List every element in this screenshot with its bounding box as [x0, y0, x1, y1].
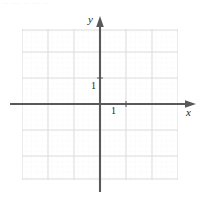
y-axis-unit-tick-label: 1	[91, 81, 96, 91]
x-axis-label: x	[186, 107, 191, 118]
y-axis-label: y	[88, 14, 93, 25]
coordinate-grid-figure: ·· ··· ·· ··· ··	[0, 0, 202, 202]
x-axis-unit-tick-label: 1	[111, 106, 116, 116]
grid-and-axes-svg	[0, 0, 202, 202]
y-axis-arrowhead	[96, 16, 104, 27]
